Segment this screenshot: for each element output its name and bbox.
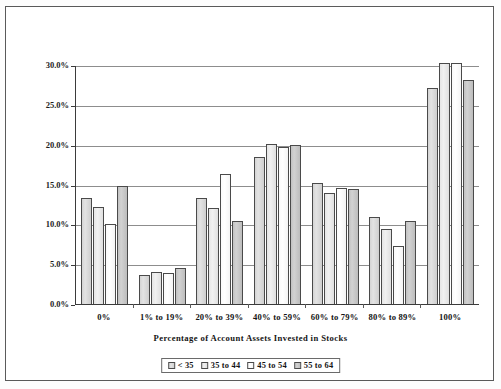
y-axis-tick-label: 10.0% — [25, 220, 69, 229]
y-axis-tick-label: 25.0% — [25, 101, 69, 110]
bar — [175, 268, 186, 304]
bar-groups — [76, 66, 479, 304]
bar — [393, 246, 404, 304]
bar-group — [421, 66, 479, 304]
bar — [312, 183, 323, 304]
bar-group — [134, 66, 192, 304]
bar-group — [76, 66, 134, 304]
x-axis-tick-label: 20% to 39% — [190, 311, 248, 327]
legend: < 3535 to 4445 to 5455 to 64 — [161, 358, 341, 373]
y-axis-tick-label: 30.0% — [25, 61, 69, 70]
y-axis-tick-label: 20.0% — [25, 141, 69, 150]
bar — [290, 145, 301, 304]
bar — [163, 273, 174, 304]
x-axis-tick-label: 1% to 19% — [133, 311, 191, 327]
legend-swatch-icon — [247, 362, 254, 369]
x-axis-tick-label: 40% to 59% — [248, 311, 306, 327]
bar — [93, 207, 104, 304]
legend-item[interactable]: < 35 — [168, 361, 194, 370]
bar — [427, 88, 438, 304]
bar — [117, 186, 128, 304]
x-axis-tick-mark — [133, 304, 134, 308]
bar — [369, 217, 380, 304]
x-axis-tick-label: 80% to 89% — [364, 311, 422, 327]
x-axis-tick-mark — [248, 304, 249, 308]
bar — [105, 224, 116, 304]
bar — [336, 188, 347, 304]
legend-swatch-icon — [294, 362, 301, 369]
plot-area — [75, 66, 479, 305]
bar — [405, 221, 416, 304]
bar — [266, 144, 277, 304]
y-axis-tick-mark — [71, 305, 75, 306]
y-axis-tick-label: 5.0% — [25, 260, 69, 269]
x-axis-tick-mark — [363, 304, 364, 308]
bar-group — [249, 66, 307, 304]
bar — [278, 147, 289, 304]
bar — [439, 63, 450, 304]
chart-figure: Percentage of Account Owners 0.0%5.0%10.… — [0, 0, 501, 389]
bar — [348, 189, 359, 304]
bar — [196, 198, 207, 304]
bar — [220, 174, 231, 304]
x-axis-tick-label: 100% — [421, 311, 479, 327]
x-axis-tick-label: 0% — [75, 311, 133, 327]
bar — [254, 157, 265, 304]
x-axis-tick-mark — [305, 304, 306, 308]
y-axis-tick-label: 0.0% — [25, 300, 69, 309]
bar — [324, 193, 335, 304]
x-axis-tick-label: 60% to 79% — [306, 311, 364, 327]
y-axis-tick-label: 15.0% — [25, 181, 69, 190]
legend-swatch-icon — [201, 362, 208, 369]
legend-label: 55 to 64 — [304, 361, 334, 370]
bar — [451, 63, 462, 304]
legend-label: < 35 — [178, 361, 194, 370]
x-axis-tick-labels: 0%1% to 19%20% to 39%40% to 59%60% to 79… — [75, 311, 479, 327]
bar — [381, 229, 392, 304]
bar — [463, 80, 474, 304]
bar-group — [306, 66, 364, 304]
bar — [81, 198, 92, 304]
x-axis-tick-mark — [420, 304, 421, 308]
bar — [208, 208, 219, 304]
legend-label: 45 to 54 — [257, 361, 287, 370]
x-axis-tick-mark — [190, 304, 191, 308]
bar-group — [191, 66, 249, 304]
legend-item[interactable]: 45 to 54 — [247, 361, 287, 370]
legend-swatch-icon — [168, 362, 175, 369]
legend-item[interactable]: 55 to 64 — [294, 361, 334, 370]
x-axis-title: Percentage of Account Assets Invested in… — [0, 333, 501, 343]
legend-label: 35 to 44 — [211, 361, 241, 370]
bar — [232, 221, 243, 304]
bar-group — [364, 66, 422, 304]
bar — [151, 272, 162, 304]
bar — [139, 275, 150, 304]
legend-item[interactable]: 35 to 44 — [201, 361, 241, 370]
